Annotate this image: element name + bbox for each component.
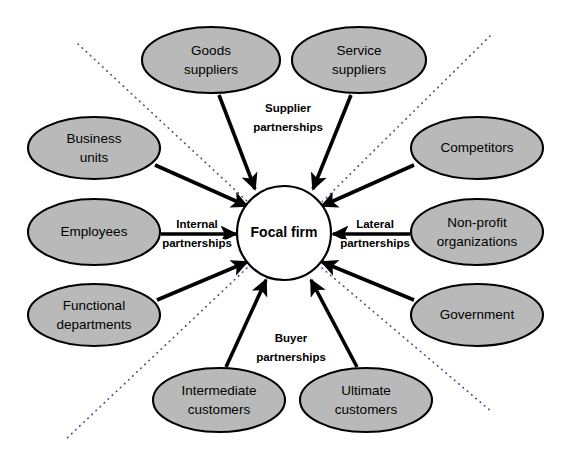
arrow-competitors xyxy=(322,165,414,206)
label-text-internal-partnerships-line2: partnerships xyxy=(162,237,232,249)
node-label-business-units: Business xyxy=(67,131,122,146)
label-text-supplier-partnerships-line1: Supplier xyxy=(265,102,312,114)
node-label-focal-firm: Focal firm xyxy=(251,224,318,240)
arrow-government xyxy=(322,262,414,300)
node-label2-business-units: units xyxy=(80,150,109,165)
node-label2-service-suppliers: suppliers xyxy=(332,62,386,77)
label-buyer-partnerships: BuyerBuyerpartnershipspartnerships xyxy=(256,332,326,363)
node-label2-ultimate-customers: customers xyxy=(335,402,398,417)
diagram-canvas: GoodssuppliersServicesuppliersBusinessun… xyxy=(0,0,571,462)
node-intermediate-customers[interactable]: Intermediatecustomers xyxy=(153,368,285,432)
node-label2-goods-suppliers: suppliers xyxy=(184,62,238,77)
node-label-government: Government xyxy=(440,307,515,322)
node-label-service-suppliers: Service xyxy=(336,43,381,58)
node-non-profit-organizations[interactable]: Non-profitorganizations xyxy=(411,199,543,265)
arrow-business-units xyxy=(155,165,247,206)
node-service-suppliers[interactable]: Servicesuppliers xyxy=(292,27,426,93)
node-competitors[interactable]: Competitors xyxy=(411,117,543,179)
node-employees[interactable]: Employees xyxy=(28,199,160,265)
arrow-functional-departments xyxy=(157,262,247,300)
label-text-lateral-partnerships-line2: partnerships xyxy=(340,237,410,249)
node-shape-goods-suppliers xyxy=(142,27,280,93)
node-shape-business-units xyxy=(28,117,160,179)
arrow-service-suppliers xyxy=(313,95,351,189)
partnership-network-diagram: GoodssuppliersServicesuppliersBusinessun… xyxy=(0,0,571,462)
node-label-goods-suppliers: Goods xyxy=(191,43,231,58)
node-business-units[interactable]: Businessunits xyxy=(28,117,160,179)
node-label-intermediate-customers: Intermediate xyxy=(181,383,256,398)
node-label-ultimate-customers: Ultimate xyxy=(341,383,391,398)
node-label2-non-profit-organizations: organizations xyxy=(437,234,518,249)
arrow-goods-suppliers xyxy=(219,95,255,189)
label-supplier-partnerships: SupplierSupplierpartnershipspartnerships xyxy=(253,102,323,133)
label-text-internal-partnerships-line1: Internal xyxy=(176,218,218,230)
node-focal-firm[interactable]: Focal firm xyxy=(237,186,331,280)
node-label-functional-departments: Functional xyxy=(63,298,125,313)
node-label-competitors: Competitors xyxy=(441,140,514,155)
node-label2-intermediate-customers: customers xyxy=(188,402,251,417)
node-shape-non-profit-organizations xyxy=(411,199,543,265)
node-label2-functional-departments: departments xyxy=(56,317,131,332)
node-goods-suppliers[interactable]: Goodssuppliers xyxy=(142,27,280,93)
node-shape-service-suppliers xyxy=(292,27,426,93)
center-node-layer: Focal firm xyxy=(237,186,331,280)
label-text-lateral-partnerships-line1: Lateral xyxy=(356,218,394,230)
label-text-buyer-partnerships-line2: partnerships xyxy=(256,351,326,363)
node-functional-departments[interactable]: Functionaldepartments xyxy=(28,284,160,346)
label-text-buyer-partnerships-line1: Buyer xyxy=(275,332,308,344)
node-label-non-profit-organizations: Non-profit xyxy=(447,215,507,230)
node-label-employees: Employees xyxy=(61,224,128,239)
node-government[interactable]: Government xyxy=(411,284,543,346)
label-text-supplier-partnerships-line2: partnerships xyxy=(253,121,323,133)
node-shape-ultimate-customers xyxy=(300,368,432,432)
node-shape-intermediate-customers xyxy=(153,368,285,432)
node-shape-functional-departments xyxy=(28,284,160,346)
node-ultimate-customers[interactable]: Ultimatecustomers xyxy=(300,368,432,432)
